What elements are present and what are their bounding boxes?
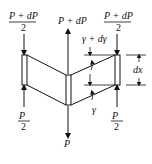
top-center-force-label: P + dP (57, 15, 87, 26)
bottom-center-force-label: P (63, 138, 70, 149)
top-left-force-label: P + dP 2 (8, 10, 38, 33)
center-plate (66, 75, 71, 105)
top-left-numerator: P + dP (8, 10, 38, 21)
left-strip-top-edge (27, 55, 66, 75)
bottom-left-numerator: P (18, 110, 25, 121)
top-right-numerator: P + dP (103, 10, 133, 21)
bottom-right-force-label: P 2 (111, 110, 123, 132)
top-right-denominator: 2 (116, 22, 121, 33)
angle-bottom-arrow-lower (92, 92, 93, 100)
right-strip-top-edge (71, 55, 115, 75)
angle-gamma-plus-dgamma-label: γ + dγ (82, 33, 108, 44)
right-strip-bottom-edge (71, 85, 115, 105)
top-left-denominator: 2 (21, 22, 26, 33)
force-diagram: P + dP 2 P + dP P + dP 2 γ + dγ γ dx (0, 0, 152, 164)
bottom-left-denominator: 2 (21, 121, 26, 132)
top-right-force-label: P + dP 2 (103, 10, 133, 33)
left-plate (22, 55, 27, 85)
dimension-dx-label: dx (133, 64, 143, 75)
left-strip-bottom-edge (27, 85, 66, 105)
right-plate (115, 55, 120, 85)
bottom-right-numerator: P (111, 110, 118, 121)
bottom-left-force-label: P 2 (18, 110, 30, 132)
dimension-dx: dx (126, 55, 146, 85)
angle-gamma-label: γ (92, 104, 97, 115)
bottom-right-denominator: 2 (114, 121, 119, 132)
